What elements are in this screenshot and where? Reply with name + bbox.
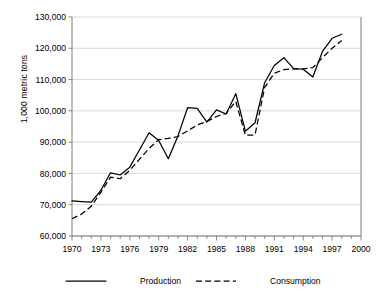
y-tick-label: 90,000 [40,137,67,147]
line-chart: 1,000 metric tons 60,00070,00080,00090,0… [0,0,383,300]
x-tick-label: 1973 [91,244,110,254]
y-axis-tick-labels: 60,00070,00080,00090,000100,000110,00012… [35,12,66,241]
series-line-consumption [72,40,342,218]
legend-label-consumption: Consumption [270,276,321,286]
y-tick-label: 100,000 [35,106,66,116]
y-tick-label: 80,000 [40,169,67,179]
plot-area: 60,00070,00080,00090,000100,000110,00012… [0,0,383,300]
legend-label-production: Production [140,276,181,286]
y-tick-label: 60,000 [40,231,67,241]
x-tick-label: 1982 [178,244,197,254]
x-tick-label: 2000 [351,244,370,254]
x-tick-label: 1970 [62,244,81,254]
x-tick-label: 1994 [294,244,313,254]
gridlines [69,17,362,236]
x-tick-label: 1997 [323,244,342,254]
y-tick-label: 70,000 [40,200,67,210]
y-tick-label: 110,000 [36,75,67,85]
chart-canvas: 60,00070,00080,00090,000100,000110,00012… [0,0,383,300]
x-tick-label: 1979 [149,244,168,254]
data-series [72,34,342,219]
x-tick-label: 1985 [207,244,226,254]
y-tick-label: 130,000 [35,12,66,22]
x-tick-label: 1976 [120,244,139,254]
x-tick-label: 1991 [265,244,284,254]
axis-lines [72,17,361,236]
y-tick-label: 120,000 [35,43,66,53]
x-tick-label: 1988 [236,244,255,254]
x-axis-tick-marks [72,236,361,241]
chart-legend: ProductionConsumption [66,276,321,286]
x-axis-tick-labels: 1970197319761979198219851988199119941997… [62,244,370,254]
